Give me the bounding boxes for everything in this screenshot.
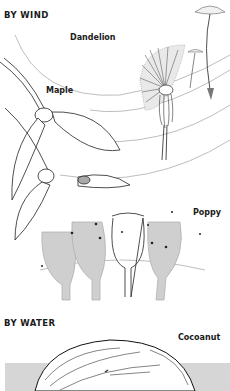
label-coconut: Cocoanut — [178, 333, 220, 342]
heading-by-wind: BY WIND — [4, 10, 49, 20]
label-maple: Maple — [46, 86, 73, 95]
heading-by-water: BY WATER — [4, 318, 55, 328]
label-dandelion: Dandelion — [70, 33, 116, 42]
label-poppy: Poppy — [193, 208, 221, 217]
coconut-icon — [35, 340, 195, 391]
